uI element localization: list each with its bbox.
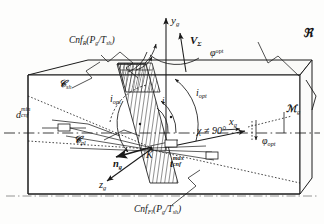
label-v-sigma: VΣ (190, 35, 202, 48)
diagram-vector-layer (0, 0, 324, 224)
label-c-sh: 𝒞sh (59, 79, 72, 90)
label-chi-angle: χ ≠ 90° (197, 126, 226, 136)
label-y-axis: yg (171, 15, 179, 28)
label-i-opt-left: iopt (110, 94, 121, 105)
label-d-cnf-min: dmincnf (16, 109, 21, 120)
label-t-cnf-max: tmaxcnf (170, 158, 173, 169)
label-cnf-top: CnfR(Pg/Tsh) (69, 36, 115, 47)
label-x-axis: xg (229, 117, 237, 128)
label-phi-sub-opt: φopt (262, 136, 275, 147)
label-z-axis: zg (99, 180, 106, 191)
label-i-opt-right: iopt (196, 88, 207, 99)
engineering-diagram: CnfR(Pg/Tsh) CnfFl(Pg/Tsh) yg VΣ φopt ℜ … (0, 0, 324, 224)
label-n-g: ng (113, 159, 122, 170)
label-cnf-bottom: CnfFl(Pg/Tsh) (134, 205, 181, 216)
label-frak-r: ℜ (303, 27, 313, 39)
label-m-g: ℳg (286, 104, 300, 115)
label-phi-sup-opt: φopt (210, 48, 223, 58)
label-point-k: K (146, 150, 153, 160)
label-i-angle: i (162, 96, 165, 105)
label-c-pl: 𝒞pl (74, 135, 86, 146)
